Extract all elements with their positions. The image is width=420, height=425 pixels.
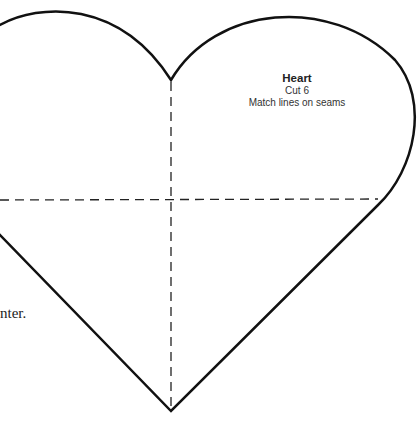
horizontal-guide-line xyxy=(0,199,378,200)
heart-pattern xyxy=(0,0,420,425)
seam-note: Match lines on seams xyxy=(232,97,362,109)
cropped-instruction-text: nter. xyxy=(0,305,26,322)
pattern-title: Heart xyxy=(232,72,362,85)
pattern-label: Heart Cut 6 Match lines on seams xyxy=(232,72,362,109)
cut-instruction: Cut 6 xyxy=(232,85,362,97)
